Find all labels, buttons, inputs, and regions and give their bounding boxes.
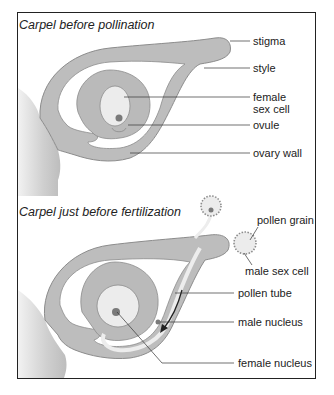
label-pollen-tube: pollen tube	[238, 287, 292, 299]
label-ovule: ovule	[253, 119, 279, 131]
label-pollen-grain: pollen grain	[257, 214, 314, 226]
carpel-before-fertilization-illustration	[18, 196, 256, 378]
label-female-sex-cell-line2: sex cell	[253, 103, 290, 115]
label-ovary-wall: ovary wall	[253, 147, 302, 159]
label-female-sex-cell-line1: female	[253, 91, 286, 103]
panel-title-before-fertilization: Carpel just before fertilization	[19, 205, 181, 219]
carpel-diagram	[0, 0, 334, 395]
label-stigma: stigma	[253, 35, 285, 47]
label-style: style	[253, 62, 276, 74]
panel-title-before-pollination: Carpel before pollination	[19, 18, 155, 32]
carpel-before-pollination-illustration	[18, 38, 230, 196]
label-male-nucleus: male nucleus	[238, 316, 303, 328]
label-female-nucleus: female nucleus	[238, 357, 312, 369]
label-male-sex-cell: male sex cell	[245, 265, 309, 277]
